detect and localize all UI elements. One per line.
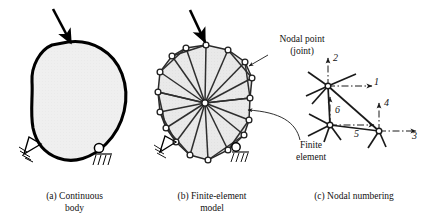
caption-c-line1: (c) Nodal numbering [288, 190, 420, 202]
dof-axes [328, 58, 416, 131]
caption-a-line2: body [22, 202, 127, 214]
dof-label-4: 4 [384, 97, 389, 108]
dof-label-1: 1 [374, 76, 379, 87]
annotation-nodal-point: Nodal point (joint) [262, 34, 342, 57]
body-outline [32, 42, 126, 161]
leader-finite-element [248, 110, 300, 140]
panel-finite-element-model [154, 10, 300, 163]
caption-b-line2: model [152, 202, 272, 214]
caption-panel-a: (a) Continuous body [22, 190, 127, 214]
panel-nodal-numbering [306, 58, 416, 148]
dof-label-5: 5 [354, 128, 359, 139]
annotation-finite-element-line1: Finite [283, 140, 339, 152]
annotation-nodal-point-line2: (joint) [262, 46, 342, 58]
support-roller-b [231, 143, 249, 162]
caption-b-line1: (b) Finite-element [152, 190, 272, 202]
dof-label-6: 6 [335, 104, 340, 115]
figure-finite-element-discretization: 2 1 6 4 5 3 Nodal point (joint) Finite e… [0, 0, 425, 221]
annotation-finite-element-line2: element [283, 152, 339, 164]
dof-label-3: 3 [412, 130, 417, 141]
figure-canvas [0, 0, 425, 221]
panel-continuous-body [19, 9, 126, 165]
annotation-nodal-point-line1: Nodal point [262, 34, 342, 46]
caption-panel-c: (c) Nodal numbering [288, 190, 420, 202]
support-pin-b [154, 136, 176, 158]
support-roller-a [93, 143, 112, 165]
load-arrow-b [190, 10, 205, 42]
load-arrow-a [53, 9, 71, 43]
caption-panel-b: (b) Finite-element model [152, 190, 272, 214]
caption-a-line1: (a) Continuous [22, 190, 127, 202]
annotation-finite-element: Finite element [283, 140, 339, 163]
